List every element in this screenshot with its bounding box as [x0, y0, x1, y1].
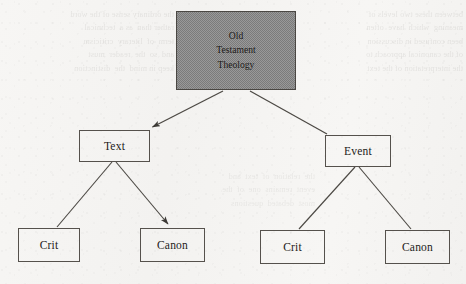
diagram-page: the ordinary sense of the word rather th… — [0, 0, 466, 284]
edge-root-to-text — [153, 91, 224, 127]
node-event[interactable]: Event — [325, 135, 391, 167]
node-text-crit[interactable]: Crit — [18, 228, 80, 262]
node-event-crit-label: Crit — [283, 241, 302, 253]
node-text-crit-label: Crit — [40, 239, 59, 251]
node-event-canon-label: Canon — [402, 241, 433, 253]
edge-text-to-crit — [57, 162, 112, 227]
edge-text-to-canon — [116, 162, 168, 224]
node-text[interactable]: Text — [79, 130, 150, 162]
edge-event-to-canon — [359, 167, 411, 229]
node-text-label: Text — [104, 140, 125, 152]
node-event-canon[interactable]: Canon — [385, 230, 450, 264]
node-event-crit[interactable]: Crit — [260, 230, 325, 264]
node-text-canon-label: Canon — [157, 239, 188, 251]
node-root-label-line-3: Theology — [216, 58, 255, 72]
node-event-label: Event — [344, 145, 372, 157]
node-root-label-group: Old Testament Theology — [216, 29, 255, 72]
node-root-label-line-1: Old — [216, 29, 255, 43]
edge-root-to-event — [250, 91, 327, 134]
node-old-testament-theology[interactable]: Old Testament Theology — [176, 11, 296, 90]
node-root-label-line-2: Testament — [216, 43, 255, 57]
node-text-canon[interactable]: Canon — [140, 228, 205, 262]
edge-event-to-crit — [299, 167, 355, 229]
